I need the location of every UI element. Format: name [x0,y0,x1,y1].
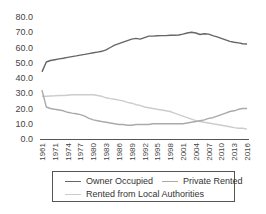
legend-item-private-rented: Private Rented [162,176,243,186]
y-tick-label: 20.0 [15,104,33,114]
x-tick-label: 1983 [102,142,111,160]
y-axis: 0.010.020.030.040.050.060.070.080.0 [15,12,33,144]
x-tick-label: 1992 [141,142,150,160]
x-tick-label: 1989 [128,142,137,160]
y-tick-label: 50.0 [15,58,33,68]
x-tick-label: 2010 [217,142,226,160]
y-tick-label: 10.0 [15,119,33,129]
x-tick-label: 2007 [205,142,214,160]
plot-lines [42,32,247,129]
legend-swatch-owner-occupied [65,181,81,182]
x-tick-label: 1998 [166,142,175,160]
x-tick-label: 2016 [243,142,252,160]
y-tick-label: 60.0 [15,43,33,53]
legend-item-owner-occupied: Owner Occupied [65,176,153,186]
legend-label: Rented from Local Authorities [86,189,204,199]
legend-swatch-local-authorities [65,194,81,195]
x-tick-label: 1977 [76,142,85,160]
y-tick-label: 80.0 [15,12,33,22]
x-tick-label: 1971 [51,142,60,160]
x-tick-label: 1986 [115,142,124,160]
x-tick-label: 1961 [38,142,47,160]
y-tick-label: 70.0 [15,27,33,37]
y-tick-label: 30.0 [15,88,33,98]
y-tick-label: 40.0 [15,73,33,83]
chart-legend: Owner Occupied Private Rented Rented fro… [52,171,235,202]
x-tick-label: 2001 [179,142,188,160]
legend-swatch-private-rented [162,181,178,182]
x-tick-label: 1995 [153,142,162,160]
x-tick-label: 2013 [230,142,239,160]
legend-item-local-authorities: Rented from Local Authorities [65,189,204,199]
legend-label: Owner Occupied [86,176,153,186]
legend-label: Private Rented [183,176,243,186]
x-tick-label: 1980 [89,142,98,160]
x-tick-label: 2004 [192,142,201,160]
series-line-owner-occupied [42,32,247,72]
x-axis: 1961197119741977198019831986198919921995… [38,140,252,161]
x-tick-label: 1974 [64,142,73,160]
y-tick-label: 0.0 [20,134,33,144]
